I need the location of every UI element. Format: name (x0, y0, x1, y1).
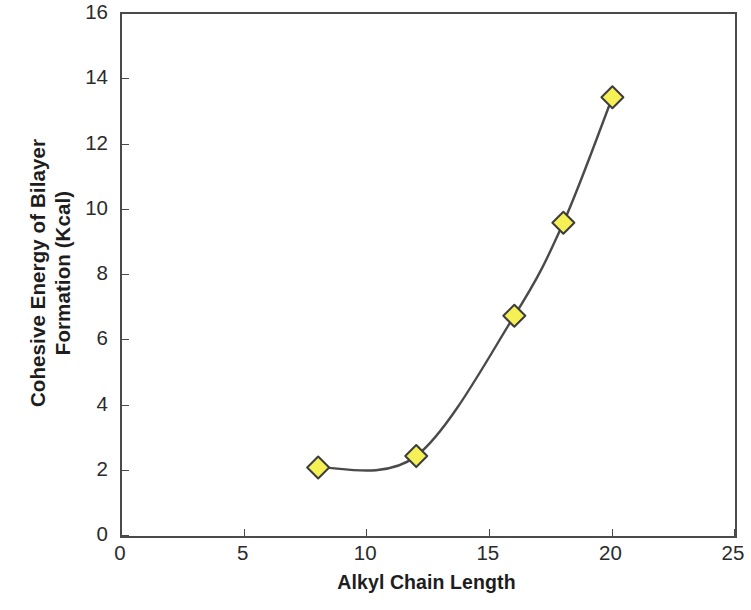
x-tick-label: 5 (221, 543, 265, 564)
x-tick-label: 0 (98, 543, 142, 564)
data-point-marker (552, 212, 574, 234)
y-axis-title-line-1: Cohesive Energy of Bilayer (25, 138, 50, 406)
x-tick-label: 20 (588, 543, 632, 564)
series-line (318, 97, 612, 470)
x-tick-label: 15 (466, 543, 510, 564)
y-tick-label: 12 (70, 133, 108, 154)
x-axis-title: Alkyl Chain Length (120, 571, 733, 594)
chart-figure: Cohesive Energy of Bilayer Formation (Kc… (0, 0, 751, 610)
y-tick-label: 14 (70, 67, 108, 88)
series-markers (307, 86, 623, 478)
y-tick-label: 8 (70, 263, 108, 284)
x-tick-label: 10 (343, 543, 387, 564)
plot-area (120, 12, 737, 538)
data-point-marker (307, 456, 329, 478)
y-tick-label: 0 (70, 524, 108, 545)
data-series-layer (122, 14, 735, 536)
y-tick-label: 16 (70, 2, 108, 23)
y-tick-label: 4 (70, 394, 108, 415)
y-tick-label: 10 (70, 198, 108, 219)
y-tick-label: 6 (70, 328, 108, 349)
data-point-marker (503, 305, 525, 327)
data-point-marker (601, 86, 623, 108)
y-tick-label: 2 (70, 459, 108, 480)
x-tick-label: 25 (711, 543, 751, 564)
